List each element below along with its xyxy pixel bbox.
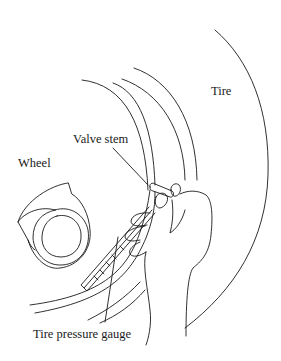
rim-lower-3 [88,282,140,320]
wheel-face-inner [42,215,81,257]
gauge-label: Tire pressure gauge [33,328,131,341]
wheel-label: Wheel [18,157,51,170]
valve-stem [150,183,174,197]
diagram-drawing [0,0,281,361]
gauge-head [171,184,181,196]
valve-stem-label: Valve stem [73,133,128,146]
wheel-side-line [18,209,55,250]
wheel-outer [18,183,90,268]
tire-outer-arc [185,30,268,328]
gauge-scale-marks [94,246,124,280]
hand-outline [180,191,212,336]
tire-arc-1 [134,68,197,180]
wrist-left [145,252,151,345]
tire-label: Tire [211,85,231,98]
rim-lower-4 [100,290,145,323]
gauge-body-edge [84,213,155,291]
valve-stem-leader [113,148,148,185]
hand-inner-fold [170,200,185,233]
tire-pressure-diagram: Tire Valve stem Wheel Tire pressure gaug… [0,0,281,361]
